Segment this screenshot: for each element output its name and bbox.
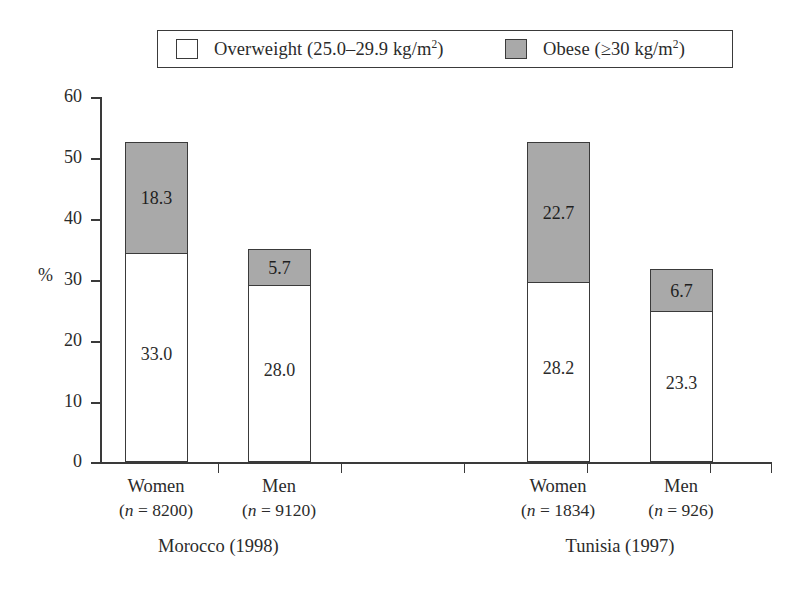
category-label-morocco-men: Men (n = 9120) [219, 474, 339, 523]
y-tick-label-30: 30 [64, 269, 82, 290]
sample-value: = 926) [663, 500, 714, 520]
bar-morocco-women: 18.3 33.0 [125, 142, 188, 462]
category-sample-size: (n = 1834) [498, 499, 618, 523]
group-label-tunisia: Tunisia (1997) [560, 536, 680, 557]
sample-value: = 9120) [257, 500, 316, 520]
bar-segment-overweight: 28.0 [248, 285, 311, 462]
category-sample-size: (n = 9120) [219, 499, 339, 523]
n-symbol: n [248, 500, 257, 520]
figure-root: Overweight (25.0–29.9 kg/m2) Obese (≥30 … [0, 0, 789, 592]
bar-segment-obese: 18.3 [125, 142, 188, 254]
bar-tunisia-women: 22.7 28.2 [527, 142, 590, 462]
x-divider-2 [341, 462, 342, 473]
y-tick-30: 30 [91, 280, 100, 282]
n-symbol: n [654, 500, 663, 520]
x-axis-right-cap [771, 462, 772, 473]
category-sex: Men [664, 476, 698, 496]
category-sample-size: (n = 926) [621, 499, 741, 523]
x-axis-line [100, 462, 772, 464]
y-tick-40: 40 [91, 219, 100, 221]
y-tick-50: 50 [91, 158, 100, 160]
n-symbol: n [125, 500, 134, 520]
y-tick-0: 0 [91, 462, 100, 464]
group-label-morocco: Morocco (1998) [158, 536, 278, 557]
category-label-tunisia-men: Men (n = 926) [621, 474, 741, 523]
bar-value-overweight: 23.3 [666, 374, 698, 392]
y-tick-label-40: 40 [64, 208, 82, 229]
y-axis-title: % [38, 265, 53, 286]
bar-tunisia-men: 6.7 23.3 [650, 269, 713, 462]
bar-segment-overweight: 33.0 [125, 253, 188, 462]
category-sex: Men [262, 476, 296, 496]
category-sample-size: (n = 8200) [96, 499, 216, 523]
bar-value-obese: 5.7 [268, 259, 291, 277]
sample-value: = 1834) [536, 500, 595, 520]
x-divider-4 [587, 462, 588, 473]
y-tick-label-10: 10 [64, 391, 82, 412]
bar-segment-overweight: 28.2 [527, 282, 590, 462]
bar-value-overweight: 33.0 [141, 345, 173, 363]
bar-segment-obese: 6.7 [650, 269, 713, 312]
bar-value-overweight: 28.2 [543, 359, 575, 377]
bar-segment-overweight: 23.3 [650, 311, 713, 462]
bar-segment-obese: 5.7 [248, 249, 311, 286]
y-tick-label-20: 20 [64, 330, 82, 351]
n-symbol: n [527, 500, 536, 520]
y-tick-label-60: 60 [64, 86, 82, 107]
bar-morocco-men: 5.7 28.0 [248, 249, 311, 462]
bar-value-obese: 18.3 [141, 189, 173, 207]
x-divider-3 [464, 462, 465, 473]
category-sex: Women [127, 476, 184, 496]
x-divider-1 [218, 462, 219, 473]
bar-segment-obese: 22.7 [527, 142, 590, 283]
sample-value: = 8200) [134, 500, 193, 520]
bar-value-overweight: 28.0 [264, 361, 296, 379]
y-tick-10: 10 [91, 402, 100, 404]
category-sex: Women [529, 476, 586, 496]
y-tick-60: 60 [91, 97, 100, 99]
bar-value-obese: 6.7 [670, 282, 693, 300]
plot-area: % 60 50 40 30 20 10 0 [0, 0, 789, 592]
x-divider-5 [710, 462, 711, 473]
y-tick-label-0: 0 [73, 451, 82, 472]
bar-value-obese: 22.7 [543, 204, 575, 222]
category-label-morocco-women: Women (n = 8200) [96, 474, 216, 523]
category-label-tunisia-women: Women (n = 1834) [498, 474, 618, 523]
y-tick-20: 20 [91, 341, 100, 343]
y-axis-line [100, 97, 102, 463]
y-tick-label-50: 50 [64, 147, 82, 168]
